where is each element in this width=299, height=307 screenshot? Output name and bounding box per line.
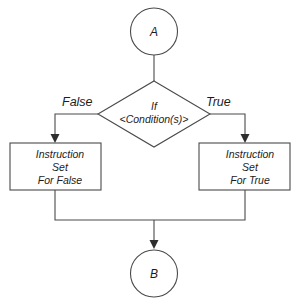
false-branch-box[interactable] [10,143,101,190]
edge-merge-bus [55,190,245,220]
end-connector-circle[interactable] [131,250,178,297]
start-connector-circle[interactable] [131,8,178,55]
flowchart-svg [0,0,299,307]
flowchart-canvas: A False True If <Condition(s)> Instructi… [0,0,299,307]
true-branch-box[interactable] [199,143,290,190]
arrowhead-false-branch [51,134,60,143]
edge-decision-to-true [210,114,245,137]
arrowhead-end-connector [150,240,159,249]
edge-decision-to-false [55,114,98,137]
arrowhead-true-branch [241,134,250,143]
decision-diamond[interactable] [98,81,210,147]
